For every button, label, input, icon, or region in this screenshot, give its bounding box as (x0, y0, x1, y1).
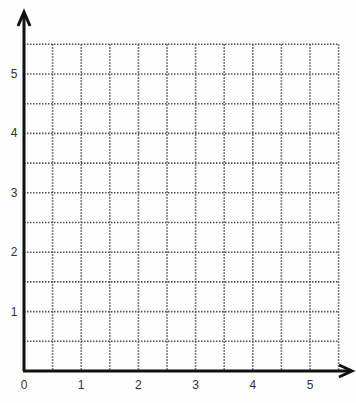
x-tick-label: 2 (135, 378, 142, 392)
x-tick-labels: 012345 (21, 378, 314, 392)
x-tick-label: 1 (78, 378, 85, 392)
x-tick-label: 4 (249, 378, 256, 392)
y-tick-label: 5 (11, 67, 18, 81)
coordinate-grid: 012345 12345 (0, 0, 356, 403)
y-tick-label: 1 (11, 305, 18, 319)
x-tick-label: 5 (307, 378, 314, 392)
x-tick-label: 3 (192, 378, 199, 392)
grid-lines (24, 44, 339, 371)
y-tick-labels: 12345 (11, 67, 18, 319)
y-tick-label: 4 (11, 126, 18, 140)
x-tick-label: 0 (21, 378, 28, 392)
axes (18, 12, 352, 377)
y-tick-label: 2 (11, 245, 18, 259)
y-tick-label: 3 (11, 186, 18, 200)
